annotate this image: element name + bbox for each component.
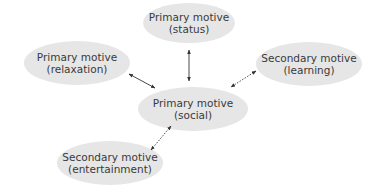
node-learning-title: Secondary motive	[261, 52, 356, 64]
node-status-title: Primary motive	[149, 11, 229, 23]
node-status-subtitle: (status)	[169, 23, 209, 35]
edge-relaxation-social-arrow	[129, 74, 155, 88]
node-social-subtitle: (social)	[174, 109, 212, 121]
node-relaxation: Primary motive (relaxation)	[24, 41, 130, 85]
node-social-title: Primary motive	[153, 97, 233, 109]
node-entertainment: Secondary motive (entertainment)	[57, 141, 163, 185]
node-social: Primary motive (social)	[138, 87, 248, 131]
node-entertainment-subtitle: (entertainment)	[68, 163, 152, 175]
node-status: Primary motive (status)	[143, 3, 235, 43]
node-entertainment-title: Secondary motive	[62, 151, 157, 163]
node-learning-subtitle: (learning)	[283, 64, 334, 76]
node-relaxation-subtitle: (relaxation)	[47, 63, 108, 75]
node-learning: Secondary motive (learning)	[256, 42, 362, 86]
node-relaxation-title: Primary motive	[37, 51, 117, 63]
edge-learning-social-arrow	[231, 71, 256, 87]
